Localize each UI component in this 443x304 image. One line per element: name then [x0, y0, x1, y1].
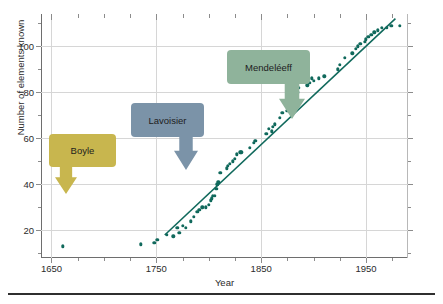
- tick-mark: [408, 69, 411, 70]
- tick-mark: [287, 258, 288, 261]
- tick-mark: [408, 207, 411, 208]
- callout-label: Boyle: [71, 145, 95, 156]
- tick-mark: [183, 258, 184, 261]
- y-tick-label: 20: [23, 225, 34, 236]
- tick-mark: [104, 258, 105, 261]
- tick-mark: [408, 230, 413, 231]
- tick-mark: [408, 115, 411, 116]
- tick-mark: [408, 46, 413, 47]
- x-tick-label: 1850: [251, 263, 272, 274]
- callout-label: Lavoisier: [148, 115, 186, 126]
- y-tick-label: 40: [23, 179, 34, 190]
- tick-mark: [408, 23, 411, 24]
- x-axis-title: Year: [41, 277, 408, 288]
- tick-mark: [408, 92, 413, 93]
- figure-container: 20406080100 Number of elements known Boy…: [0, 0, 443, 304]
- tick-mark: [78, 258, 79, 261]
- tick-mark: [314, 258, 315, 261]
- callout-box: Boyle: [49, 134, 116, 167]
- tick-mark: [130, 258, 131, 261]
- callout-box: Lavoisier: [131, 103, 204, 137]
- bottom-divider-rule: [8, 293, 435, 295]
- x-tick-label: 1650: [41, 263, 62, 274]
- x-tick-label: 1750: [146, 263, 167, 274]
- tick-mark: [209, 258, 210, 261]
- tick-mark: [408, 184, 413, 185]
- tick-mark: [340, 258, 341, 261]
- x-axis-tick-labels: 1650175018501950: [41, 263, 408, 277]
- callout-box: Mendeléeff: [227, 50, 310, 84]
- tick-mark: [408, 253, 411, 254]
- tick-mark: [392, 258, 393, 261]
- tick-mark: [408, 138, 413, 139]
- tick-mark: [408, 161, 411, 162]
- tick-mark: [235, 258, 236, 261]
- x-tick-label: 1950: [355, 263, 376, 274]
- callout-label: Mendeléeff: [245, 62, 292, 73]
- plot-area: BoyleLavoisierMendeléeff: [41, 14, 408, 258]
- y-axis-title: Number of elements known: [15, 8, 26, 148]
